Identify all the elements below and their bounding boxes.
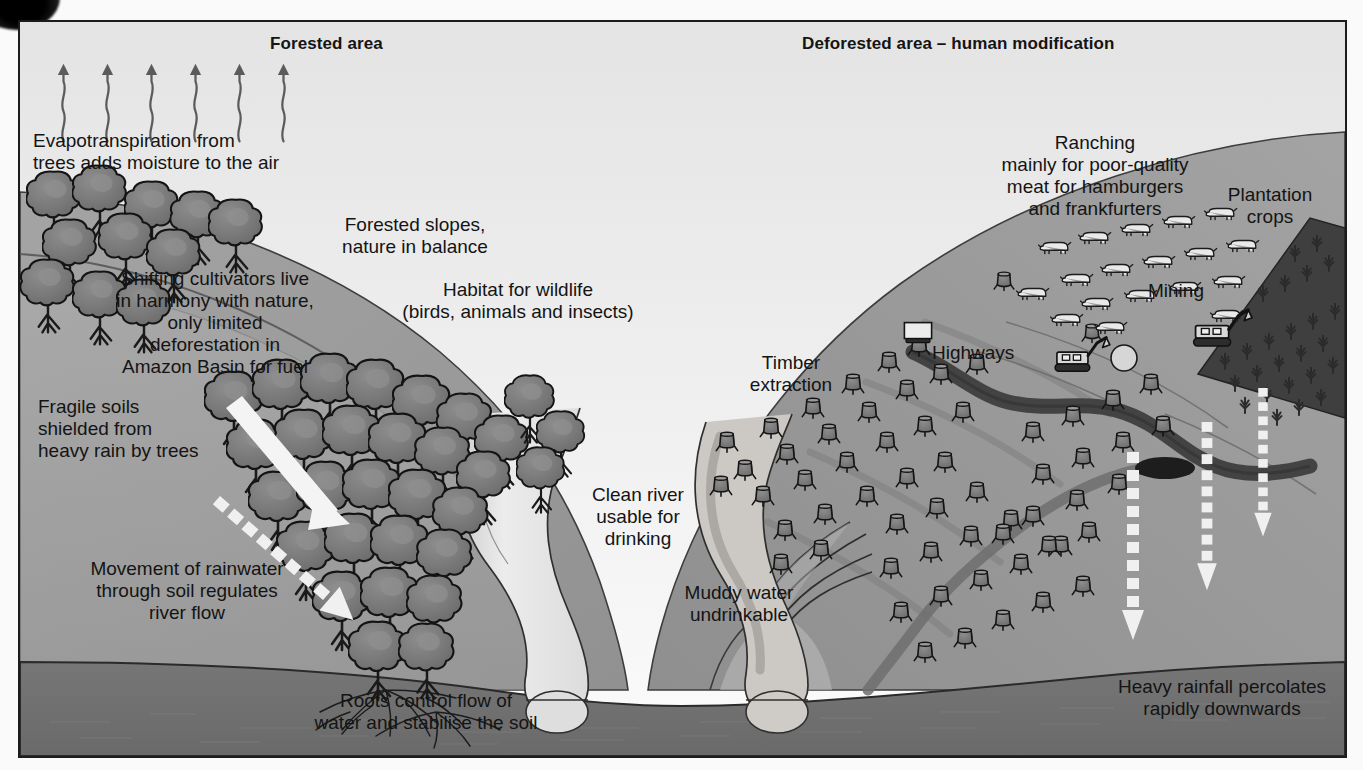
label-muddy-water: Muddy water undrinkable bbox=[654, 582, 824, 626]
label-mining: Mining bbox=[1148, 280, 1204, 302]
label-plantation-crops: Plantation crops bbox=[1210, 184, 1330, 228]
label-habitat-wildlife: Habitat for wildlife (birds, animals and… bbox=[398, 279, 638, 323]
label-evapotranspiration: Evapotranspiration from trees adds moist… bbox=[33, 130, 279, 174]
label-movement-rainwater: Movement of rainwater through soil regul… bbox=[42, 558, 332, 624]
label-fragile-soils: Fragile soils shielded from heavy rain b… bbox=[38, 396, 199, 462]
label-forested-slopes: Forested slopes, nature in balance bbox=[320, 214, 510, 258]
label-timber-extraction: Timber extraction bbox=[726, 352, 856, 396]
diagram-frame: Forested area Deforested area – human mo… bbox=[18, 20, 1347, 758]
label-roots-control: Roots control flow of water and stabilis… bbox=[276, 690, 576, 734]
label-heavy-rainfall: Heavy rainfall percolates rapidly downwa… bbox=[1082, 676, 1347, 720]
label-highways: Highways bbox=[932, 342, 1014, 364]
truck-icon bbox=[904, 323, 931, 343]
header-deforested-area: Deforested area – human modification bbox=[802, 34, 1115, 54]
diagram-stage: Forested area Deforested area – human mo… bbox=[0, 0, 1363, 770]
header-forested-area: Forested area bbox=[270, 34, 383, 54]
label-ranching: Ranching mainly for poor-quality meat fo… bbox=[955, 132, 1235, 220]
label-shifting-cultivators: Shifting cultivators live in harmony wit… bbox=[95, 268, 335, 378]
label-clean-river: Clean river usable for drinking bbox=[568, 484, 708, 550]
